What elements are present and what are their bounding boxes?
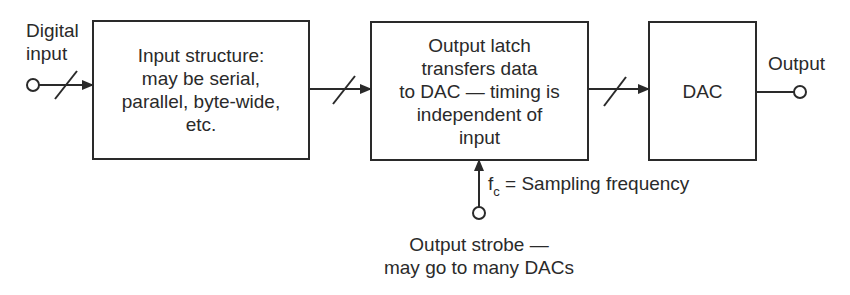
output-terminal-icon <box>794 86 806 98</box>
input-structure-label: Input structure: may be serial, parallel… <box>93 21 309 159</box>
box-text-line: parallel, byte-wide, <box>122 90 280 113</box>
box-text-line: Output latch <box>428 34 530 57</box>
box-text-line: independent of <box>417 103 543 126</box>
output-strobe-label: Output strobe — may go to many DACs <box>379 233 579 279</box>
strobe-label-line: Output strobe — <box>379 233 579 256</box>
box-text-line: input <box>459 126 500 149</box>
box-text-line: etc. <box>186 113 217 136</box>
output-latch-label: Output latch transfers data to DAC — tim… <box>371 22 588 160</box>
strobe-label-line: may go to many DACs <box>379 256 579 279</box>
digital-input-label-line: input <box>26 42 79 65</box>
digital-input-label-line: Digital <box>26 19 79 42</box>
strobe-terminal-icon <box>473 207 485 219</box>
bus-slash-icon <box>604 77 626 106</box>
box-text-line: may be serial, <box>142 67 260 90</box>
dac-label: DAC <box>649 22 756 160</box>
fc-text: = Sampling frequency <box>500 173 690 194</box>
dac-label-text: DAC <box>682 80 722 103</box>
fc-subscript: c <box>493 184 500 199</box>
box-text-line: Input structure: <box>138 44 265 67</box>
output-label: Output <box>768 52 825 75</box>
box-text-line: transfers data <box>421 57 537 80</box>
box-text-line: to DAC — timing is <box>399 80 559 103</box>
digital-input-label: Digital input <box>26 19 79 65</box>
digital-input-terminal-icon <box>27 79 39 91</box>
sampling-frequency-label: fc = Sampling frequency <box>488 172 689 197</box>
